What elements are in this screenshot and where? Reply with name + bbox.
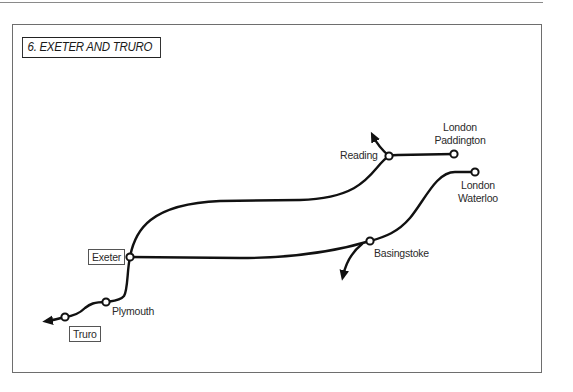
station-node-reading [385, 152, 392, 159]
label-line-2: Paddington [432, 134, 488, 147]
label-london-paddington: London Paddington [432, 121, 488, 147]
route-basingstoke-exeter [130, 241, 370, 258]
station-node-waterloo [471, 168, 478, 175]
label-plymouth: Plymouth [112, 305, 154, 318]
label-truro: Truro [69, 326, 101, 342]
station-node-exeter [126, 253, 133, 260]
route-paddington-reading [389, 154, 454, 156]
label-london-waterloo: London Waterloo [454, 179, 502, 205]
label-reading: Reading [340, 149, 378, 162]
route-reading-exeter [130, 156, 389, 257]
station-node-plymouth [102, 298, 109, 305]
label-exeter: Exeter [88, 249, 125, 265]
branch-basingstoke-southwest [343, 244, 362, 276]
station-node-basingstoke [366, 237, 373, 244]
station-node-truro [61, 313, 68, 320]
label-line-1: London [432, 121, 488, 134]
label-line-1: London [454, 179, 502, 192]
route-plymouth-truro [65, 302, 106, 317]
station-node-paddington [450, 150, 457, 157]
label-basingstoke: Basingstoke [374, 247, 429, 260]
label-line-2: Waterloo [454, 192, 502, 205]
